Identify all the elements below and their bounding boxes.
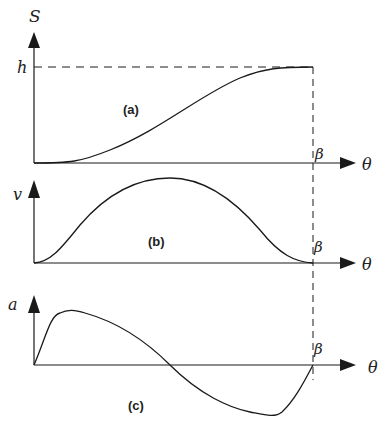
a-axis-arrow-icon [28, 295, 40, 313]
beta-label-b: β [313, 238, 323, 256]
s-axis-label: S [29, 6, 41, 26]
a-axis-label: a [8, 295, 18, 314]
h-label: h [17, 58, 27, 77]
v-axis-arrow-icon [28, 180, 40, 198]
theta-axis-c-arrow-icon [340, 359, 356, 371]
panel-b-tag: (b) [148, 234, 165, 249]
panel-a-tag: (a) [123, 102, 139, 117]
theta-axis-b-arrow-icon [340, 257, 356, 269]
beta-label-c: β [313, 340, 323, 358]
displacement-curve [34, 67, 313, 163]
panel-a-displacement: S h (a) β θ [17, 6, 372, 174]
beta-label-a: β [314, 145, 324, 163]
panel-b-velocity: v (b) β θ [13, 178, 372, 274]
theta-label-b: θ [362, 255, 372, 274]
cam-motion-diagram: S h (a) β θ v (b) β θ a (c) β θ [0, 0, 392, 426]
velocity-curve [34, 178, 313, 263]
v-axis-label: v [13, 185, 22, 204]
panel-c-acceleration: a (c) β θ [8, 295, 378, 415]
theta-label-a: θ [362, 155, 372, 174]
panel-c-tag: (c) [128, 398, 144, 413]
theta-axis-a-arrow-icon [340, 157, 356, 169]
theta-label-c: θ [368, 358, 378, 377]
acceleration-curve [34, 310, 313, 415]
s-axis-arrow-icon [28, 32, 40, 48]
diagram-svg: S h (a) β θ v (b) β θ a (c) β θ [0, 0, 392, 426]
